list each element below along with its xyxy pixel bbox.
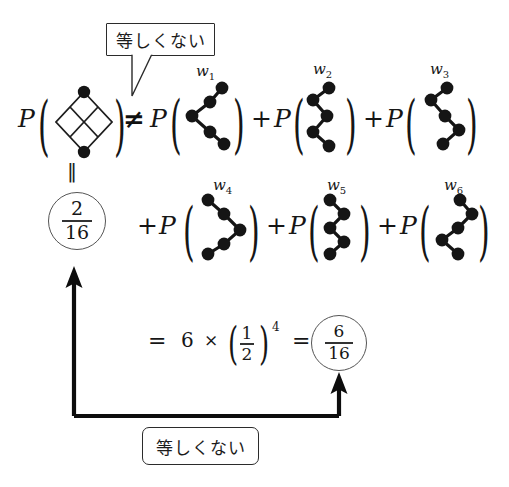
row1-term3-plus: + bbox=[363, 106, 384, 131]
row2-term5-close-paren: ) bbox=[359, 201, 371, 264]
lattice-diamond-graph bbox=[50, 86, 118, 158]
row1-term3-close-paren: ) bbox=[466, 94, 478, 157]
row1-term3-p: P bbox=[386, 106, 403, 131]
row1-term1-p: P bbox=[150, 106, 167, 131]
walk-w6-graph bbox=[428, 192, 484, 262]
lattice-node-bottom bbox=[78, 146, 90, 158]
row2-term6-close-paren: ) bbox=[478, 201, 490, 264]
walk-w2-graph bbox=[303, 80, 351, 154]
row2-term4-plus: + bbox=[137, 213, 158, 238]
not-equal-sign: ≠ bbox=[123, 106, 145, 132]
row2-term4-open-paren: ( bbox=[183, 201, 195, 264]
row1-term2-plus: + bbox=[251, 106, 272, 131]
row1-lhs-open-paren: ( bbox=[38, 94, 50, 159]
callout-box-bottom: 等しくない bbox=[142, 427, 259, 465]
lattice-node-top bbox=[78, 86, 90, 98]
row2-term4-close-paren: ) bbox=[248, 201, 260, 264]
row1-term1-label: w1 bbox=[196, 62, 215, 82]
fraction-denominator: 16 bbox=[62, 223, 92, 243]
figure-canvas: 等しくない P ( ) ≠ P ( w1 ) + P ( w bbox=[0, 0, 509, 487]
row2-term6-plus: + bbox=[377, 213, 398, 238]
circled-value-2-16: 2 16 bbox=[48, 192, 106, 250]
row2-term6-p: P bbox=[400, 213, 417, 238]
row1-term1-open-paren: ( bbox=[170, 94, 182, 157]
row1-term3-label: w3 bbox=[430, 60, 449, 80]
walk-w1-graph bbox=[182, 80, 238, 152]
row1-term2-close-paren: ) bbox=[345, 94, 357, 157]
row1-term2-label: w2 bbox=[313, 60, 332, 80]
row1-term2-p: P bbox=[274, 106, 291, 131]
row2-term5-p: P bbox=[289, 213, 306, 238]
walk-w4-graph bbox=[196, 192, 252, 262]
row1-term1-close-paren: ) bbox=[233, 94, 245, 157]
row1-lhs-p: P bbox=[18, 106, 35, 131]
callout-bottom-label: 等しくない bbox=[156, 434, 246, 459]
walk-w3-graph bbox=[415, 80, 471, 154]
fraction-numerator: 2 bbox=[68, 199, 86, 219]
callout-top-label: 等しくない bbox=[116, 27, 206, 52]
row2-term5-plus: + bbox=[266, 213, 287, 238]
fraction-2-16: 2 16 bbox=[62, 199, 92, 242]
double-bar-equals: ‖ bbox=[67, 159, 76, 183]
comparison-arrow-connector bbox=[50, 260, 410, 430]
row2-term4-p: P bbox=[159, 213, 176, 238]
